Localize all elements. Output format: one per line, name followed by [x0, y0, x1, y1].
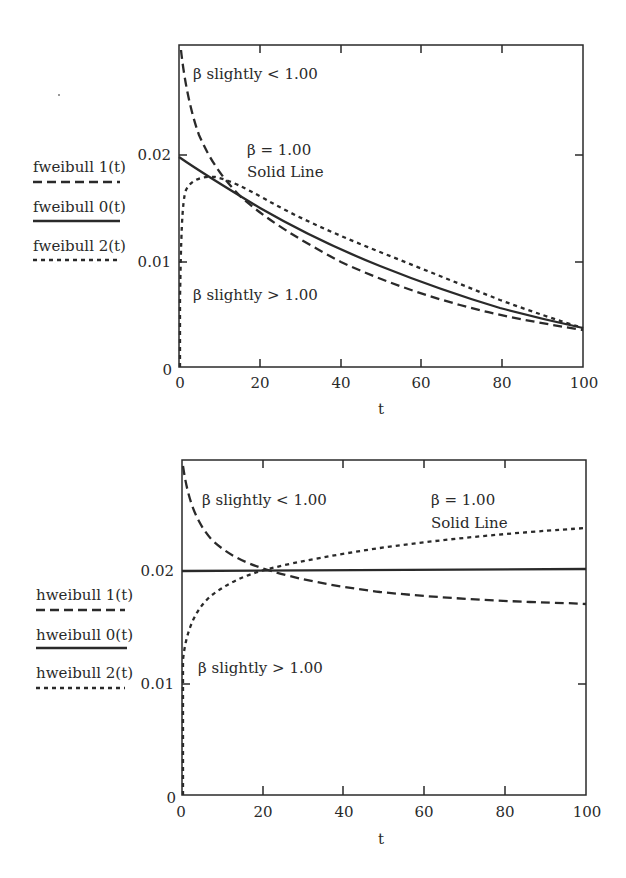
- x-tick-label: 60: [411, 374, 430, 392]
- axis-ticks: [182, 460, 586, 795]
- x-axis-label: t: [378, 830, 384, 848]
- legend: fweibull 1(t) fweibull 0(t) fweibull 2(t…: [33, 158, 126, 260]
- annotation-beta-gt-1: β slightly > 1.00: [193, 286, 318, 304]
- x-tick-label: 0: [176, 803, 186, 821]
- x-tick-label: 20: [253, 803, 272, 821]
- axis-ticks: [179, 45, 583, 367]
- legend-label-hweibull-1: hweibull 1(t): [36, 586, 133, 604]
- legend-label-fweibull-2: fweibull 2(t): [33, 237, 126, 255]
- annotation-beta-lt-1: β slightly < 1.00: [193, 65, 318, 83]
- legend-label-hweibull-0: hweibull 0(t): [36, 626, 133, 644]
- annotation-beta-eq-1: β = 1.00: [247, 141, 311, 159]
- hazard-chart: hweibull 1(t) hweibull 0(t) hweibull 2(t…: [0, 440, 626, 878]
- annotation-beta-lt-1: β slightly < 1.00: [202, 491, 327, 509]
- legend-label-hweibull-2: hweibull 2(t): [36, 664, 133, 682]
- annotation-beta-eq-1: β = 1.00: [431, 491, 495, 509]
- y-tick-label: 0.02: [141, 562, 174, 580]
- plot-frame: [179, 45, 583, 367]
- y-tick-label: 0.02: [138, 146, 171, 164]
- x-tick-label: 20: [250, 374, 269, 392]
- x-tick-label: 80: [495, 803, 514, 821]
- plot-frame: [182, 460, 586, 795]
- x-tick-label: 80: [492, 374, 511, 392]
- x-axis-label: t: [378, 400, 384, 418]
- x-tick-label: 40: [334, 803, 353, 821]
- annotation-solid-line: Solid Line: [247, 163, 324, 181]
- series-lines: [179, 50, 583, 367]
- y-tick-label: 0.01: [141, 675, 174, 693]
- annotation-beta-gt-1: β slightly > 1.00: [198, 659, 323, 677]
- x-tick-label: 0: [175, 374, 185, 392]
- y-tick-label: 0.01: [138, 253, 171, 271]
- pdf-chart: fweibull 1(t) fweibull 0(t) fweibull 2(t…: [0, 0, 626, 440]
- x-tick-label: 100: [570, 374, 599, 392]
- y-tick-label: 0: [162, 361, 172, 379]
- series-lines: [182, 466, 586, 795]
- x-tick-label: 60: [414, 803, 433, 821]
- legend-label-fweibull-1: fweibull 1(t): [33, 158, 126, 176]
- series-fweibull-2-dotted: [180, 177, 583, 367]
- x-tick-label: 40: [331, 374, 350, 392]
- annotation-solid-line: Solid Line: [431, 514, 508, 532]
- legend: hweibull 1(t) hweibull 0(t) hweibull 2(t…: [36, 586, 133, 688]
- series-hweibull-0-solid: [182, 569, 586, 571]
- y-tick-label: 0: [166, 789, 176, 807]
- series-hweibull-1-dashed: [183, 466, 586, 604]
- x-tick-label: 100: [573, 803, 602, 821]
- legend-label-fweibull-0: fweibull 0(t): [33, 198, 126, 216]
